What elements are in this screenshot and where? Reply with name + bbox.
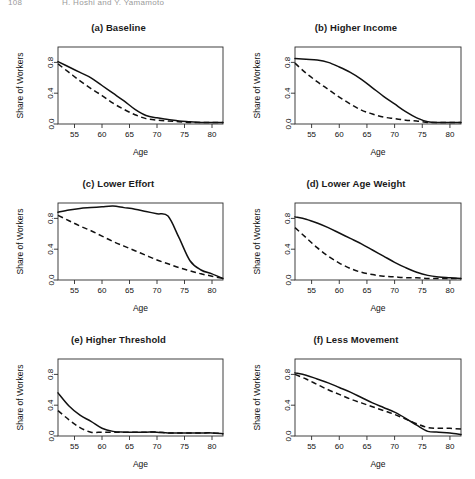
x-tick-label: 55: [70, 286, 79, 295]
x-tick-label: 70: [153, 442, 162, 451]
x-tick-label: 60: [98, 130, 107, 139]
y-tick-label: 0.8: [47, 212, 56, 224]
x-axis-label: Age: [370, 147, 385, 157]
x-tick-label: 60: [98, 442, 107, 451]
series-line-solid: [295, 217, 461, 279]
x-tick-label: 55: [70, 442, 79, 451]
y-tick-label: 0.8: [284, 368, 293, 380]
running-header-title: H. Hoshi and Y. Yamamoto: [62, 0, 164, 7]
running-header: 108 H. Hoshi and Y. Yamamoto: [0, 0, 475, 11]
y-axis-label: Share of Workers: [252, 53, 262, 119]
y-tick-label: 0.0: [47, 274, 56, 286]
panel-f: (f) Less Movement 5560657075800.00.40.8A…: [237, 323, 475, 479]
x-tick-label: 75: [180, 442, 189, 451]
x-tick-label: 75: [418, 442, 427, 451]
panel-d: (d) Lower Age Weight 5560657075800.00.40…: [237, 167, 475, 323]
x-tick-label: 70: [153, 286, 162, 295]
panel-c: (c) Lower Effort 5560657075800.00.40.8Ag…: [0, 167, 237, 323]
y-tick-label: 0.4: [284, 243, 293, 255]
series-line-solid: [58, 62, 223, 123]
x-tick-label: 60: [98, 286, 107, 295]
y-tick-label: 0.4: [284, 87, 293, 99]
y-tick-label: 0.0: [47, 118, 56, 130]
y-axis-label: Share of Workers: [252, 209, 262, 275]
x-tick-label: 70: [390, 286, 399, 295]
y-axis-label: Share of Workers: [252, 365, 262, 431]
x-tick-label: 60: [335, 286, 344, 295]
y-tick-label: 0.4: [284, 399, 293, 411]
y-axis-label: Share of Workers: [15, 53, 25, 119]
x-tick-label: 80: [445, 442, 454, 451]
x-tick-label: 65: [125, 442, 134, 451]
y-tick-label: 0.8: [47, 56, 56, 68]
series-line-solid: [295, 373, 461, 435]
x-tick-label: 70: [153, 130, 162, 139]
panel-f-plot: 5560657075800.00.40.8AgeShare of Workers: [237, 323, 475, 479]
x-axis-label: Age: [370, 303, 385, 313]
series-line-dashed: [58, 411, 223, 434]
page-number: 108: [8, 0, 22, 7]
y-tick-label: 0.4: [47, 87, 56, 99]
y-tick-label: 0.0: [284, 430, 293, 442]
x-tick-label: 70: [390, 130, 399, 139]
x-tick-label: 80: [208, 286, 217, 295]
x-tick-label: 60: [335, 442, 344, 451]
y-tick-label: 0.8: [47, 368, 56, 380]
x-tick-label: 65: [362, 286, 371, 295]
x-tick-label: 80: [208, 442, 217, 451]
series-line-solid: [58, 393, 223, 434]
x-tick-label: 80: [445, 130, 454, 139]
x-tick-label: 80: [208, 130, 217, 139]
x-tick-label: 55: [307, 130, 316, 139]
x-tick-label: 70: [390, 442, 399, 451]
x-axis-label: Age: [133, 459, 148, 469]
panel-e: (e) Higher Threshold 5560657075800.00.40…: [0, 323, 237, 479]
series-line-dashed: [295, 374, 461, 429]
x-tick-label: 80: [445, 286, 454, 295]
y-axis-label: Share of Workers: [15, 365, 25, 431]
x-tick-label: 55: [307, 442, 316, 451]
x-tick-label: 65: [362, 130, 371, 139]
panel-b: (b) Higher Income 5560657075800.00.40.8A…: [237, 11, 475, 167]
panel-c-plot: 5560657075800.00.40.8AgeShare of Workers: [0, 167, 237, 323]
series-line-solid: [295, 59, 461, 123]
y-axis-label: Share of Workers: [15, 209, 25, 275]
panel-a-plot: 5560657075800.00.40.8AgeShare of Workers: [0, 11, 237, 167]
panel-a: (a) Baseline 5560657075800.00.40.8AgeSha…: [0, 11, 237, 167]
x-tick-label: 60: [335, 130, 344, 139]
y-tick-label: 0.0: [284, 274, 293, 286]
panel-grid: (a) Baseline 5560657075800.00.40.8AgeSha…: [0, 11, 475, 479]
x-axis-label: Age: [133, 147, 148, 157]
x-axis-label: Age: [370, 459, 385, 469]
x-tick-label: 75: [418, 286, 427, 295]
x-tick-label: 65: [125, 286, 134, 295]
panel-e-plot: 5560657075800.00.40.8AgeShare of Workers: [0, 323, 237, 479]
x-axis-label: Age: [133, 303, 148, 313]
x-tick-label: 55: [307, 286, 316, 295]
x-tick-label: 75: [180, 286, 189, 295]
figure-six-panel-retirement-curves: 108 H. Hoshi and Y. Yamamoto (a) Baselin…: [0, 0, 475, 479]
y-tick-label: 0.4: [47, 399, 56, 411]
x-tick-label: 65: [125, 130, 134, 139]
y-tick-label: 0.4: [47, 243, 56, 255]
y-tick-label: 0.8: [284, 56, 293, 68]
series-line-dashed: [58, 64, 223, 123]
panel-d-plot: 5560657075800.00.40.8AgeShare of Workers: [237, 167, 475, 323]
x-tick-label: 65: [362, 442, 371, 451]
x-tick-label: 55: [70, 130, 79, 139]
y-tick-label: 0.0: [47, 430, 56, 442]
panel-b-plot: 5560657075800.00.40.8AgeShare of Workers: [237, 11, 475, 167]
y-tick-label: 0.8: [284, 212, 293, 224]
series-line-solid: [58, 206, 223, 278]
x-tick-label: 75: [418, 130, 427, 139]
x-tick-label: 75: [180, 130, 189, 139]
y-tick-label: 0.0: [284, 118, 293, 130]
